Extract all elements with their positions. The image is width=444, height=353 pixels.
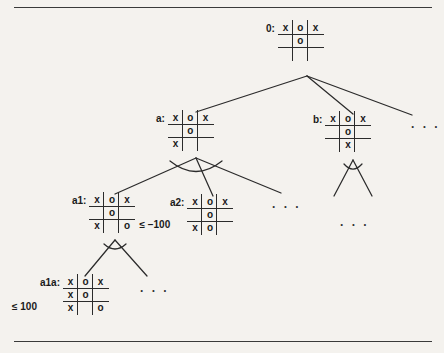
board-cell: o [119, 220, 134, 232]
bottom-divider-rule [14, 341, 432, 342]
max-arc-a1 [104, 244, 126, 249]
min-arc-b [344, 164, 362, 169]
board-cell: x [93, 276, 108, 288]
node-a1a-bound: ≤ 100 [12, 276, 40, 313]
edge-a-to-a1 [115, 158, 196, 194]
node-a-board: x o x o x [168, 112, 214, 150]
board-cell [355, 126, 370, 138]
board-cell: x [187, 222, 202, 234]
board-cell: x [217, 196, 232, 208]
board-cell: o [93, 302, 108, 314]
node-b[interactable]: b: x o x o x [313, 113, 371, 151]
board-cell [104, 220, 119, 232]
board-cell: o [78, 289, 93, 301]
board-cell: o [293, 22, 308, 34]
ellipsis-a1-children: . . . [140, 282, 169, 294]
board-cell [78, 302, 93, 314]
edge-root-to-more [307, 76, 412, 115]
board-cell [308, 48, 323, 60]
game-tree-figure: 0: x o x o a: x o x o [0, 0, 444, 353]
edge-b-to-child-left [334, 160, 353, 196]
edge-root-to-a [196, 76, 307, 112]
board-cell: o [293, 35, 308, 47]
board-cell [217, 222, 232, 234]
board-cell: o [202, 196, 217, 208]
board-cell: o [340, 113, 355, 125]
board-cell [119, 207, 134, 219]
node-a1-label: a1: [72, 194, 89, 207]
board-cell [198, 138, 213, 150]
board-cell [198, 125, 213, 137]
min-arc-a [170, 161, 222, 172]
board-cell [168, 125, 183, 137]
node-a1-bound: ≤ −100 [135, 194, 170, 231]
board-cell [325, 139, 340, 151]
board-cell: o [78, 276, 93, 288]
node-a1[interactable]: a1: x o x o x o ≤ −100 [72, 194, 170, 232]
board-cell: x [168, 112, 183, 124]
ellipsis-a-children: . . . [272, 198, 301, 210]
board-cell [355, 139, 370, 151]
board-cell: o [202, 222, 217, 234]
ellipsis-root-children: . . . [411, 118, 440, 130]
board-cell: x [89, 194, 104, 206]
edge-b-to-child-right [353, 160, 372, 196]
board-cell: x [63, 289, 78, 301]
node-b-board: x o x o x [325, 113, 371, 151]
edge-a-to-more [196, 158, 281, 193]
node-root-label: 0: [266, 22, 278, 35]
edge-root-to-b [307, 76, 353, 114]
edge-a1-to-more [115, 240, 147, 276]
node-a1a-label: a1a: [40, 276, 63, 289]
board-cell: x [63, 276, 78, 288]
edge-a-to-a2 [196, 158, 213, 196]
board-cell: x [325, 113, 340, 125]
top-divider-rule [14, 7, 432, 8]
node-a1-board: x o x o x o [89, 194, 135, 232]
node-root[interactable]: 0: x o x o [266, 22, 324, 60]
node-b-label: b: [313, 113, 325, 126]
board-cell [308, 35, 323, 47]
board-cell: o [104, 194, 119, 206]
board-cell [187, 209, 202, 221]
board-cell: x [355, 113, 370, 125]
board-cell [183, 138, 198, 150]
board-cell: x [308, 22, 323, 34]
board-cell: o [202, 209, 217, 221]
board-cell: x [198, 112, 213, 124]
node-a2[interactable]: a2: x o x o x o [170, 196, 233, 234]
node-a-label: a: [156, 112, 168, 125]
node-root-board: x o x o [278, 22, 324, 60]
board-cell: o [104, 207, 119, 219]
board-cell [217, 209, 232, 221]
board-cell: o [340, 126, 355, 138]
board-cell: x [89, 220, 104, 232]
board-cell [293, 48, 308, 60]
board-cell: o [183, 125, 198, 137]
board-cell [93, 289, 108, 301]
board-cell: x [187, 196, 202, 208]
board-cell: x [119, 194, 134, 206]
node-a2-board: x o x o x o [187, 196, 233, 234]
board-cell: x [278, 22, 293, 34]
node-a2-label: a2: [170, 196, 187, 209]
node-a[interactable]: a: x o x o x [156, 112, 214, 150]
board-cell: o [183, 112, 198, 124]
board-cell: x [168, 138, 183, 150]
ellipsis-b-children: . . . [340, 216, 369, 228]
node-a1a-board: x o x x o x o [63, 276, 109, 314]
board-cell: x [340, 139, 355, 151]
board-cell [278, 35, 293, 47]
edge-a1-to-a1a [85, 240, 115, 276]
board-cell [89, 207, 104, 219]
board-cell [325, 126, 340, 138]
node-a1a[interactable]: ≤ 100 a1a: x o x x o x o [12, 276, 109, 314]
board-cell [278, 48, 293, 60]
board-cell: x [63, 302, 78, 314]
